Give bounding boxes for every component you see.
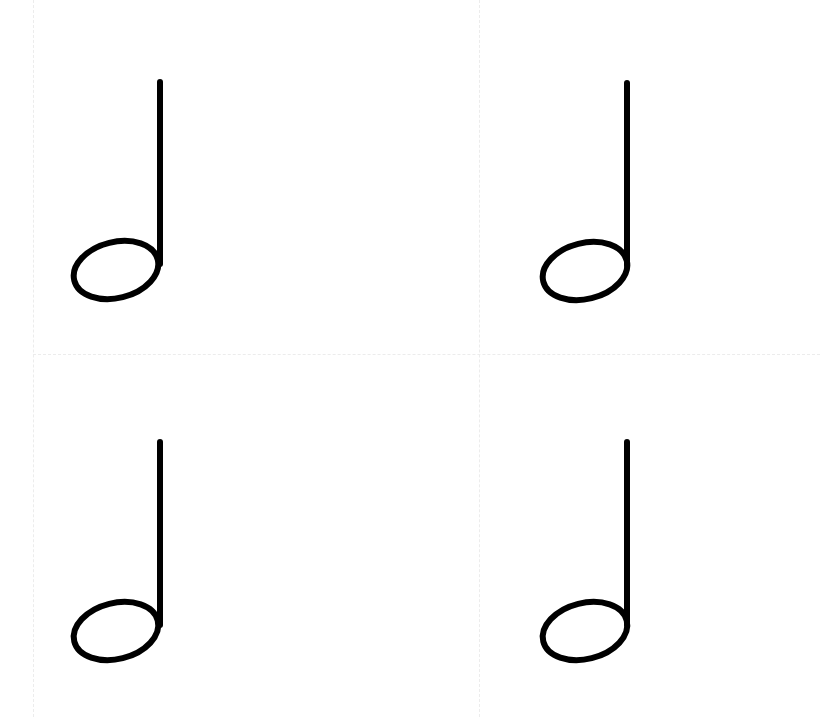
- notes-layer: [0, 0, 820, 717]
- note-head: [537, 593, 634, 668]
- note-head: [537, 233, 634, 308]
- worksheet-page: [0, 0, 820, 717]
- half-note-icon: [537, 83, 634, 309]
- note-head: [68, 593, 165, 668]
- half-note-icon: [68, 82, 165, 308]
- notes-canvas: [0, 0, 820, 717]
- half-note-icon: [537, 442, 634, 669]
- note-head: [68, 232, 165, 307]
- half-note-icon: [68, 442, 165, 669]
